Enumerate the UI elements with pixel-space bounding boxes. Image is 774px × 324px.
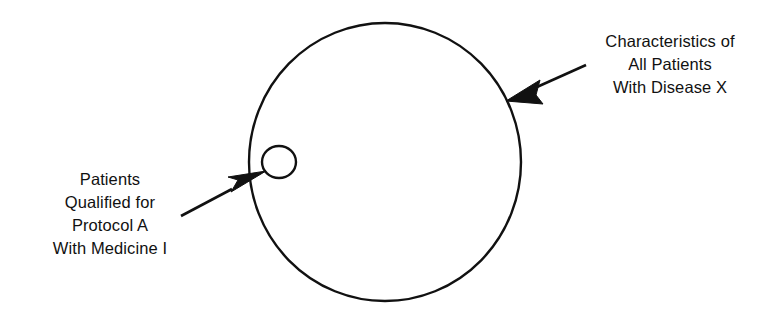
all-patients-circle	[249, 23, 521, 301]
protocol-label-line-3: Protocol A	[12, 214, 208, 237]
protocol-label-line-1: Patients	[12, 168, 208, 191]
protocol-label-line-2: Qualified for	[12, 191, 208, 214]
characteristics-label: Characteristics of All Patients With Dis…	[566, 30, 774, 99]
protocol-label: Patients Qualified for Protocol A With M…	[12, 168, 208, 260]
qualified-patients-circle	[262, 146, 296, 178]
characteristics-label-line-1: Characteristics of	[566, 30, 774, 53]
characteristics-label-line-2: All Patients	[566, 53, 774, 76]
characteristics-label-line-3: With Disease X	[566, 76, 774, 99]
protocol-label-line-4: With Medicine I	[12, 237, 208, 260]
